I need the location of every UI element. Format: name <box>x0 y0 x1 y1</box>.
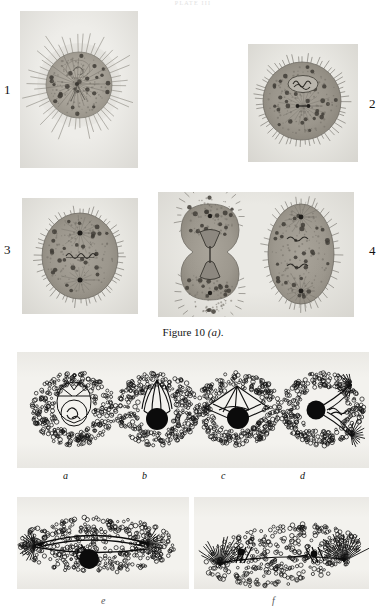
diagram-strip-f <box>194 497 369 589</box>
diagram-label-b: b <box>142 470 147 481</box>
diagram-label-e: e <box>101 595 105 606</box>
micrograph-numeral-1: 1 <box>4 82 11 98</box>
figure-caption-letter: (a) <box>208 326 221 338</box>
running-head: PLATE III <box>0 0 386 6</box>
diagram-strip-e <box>17 497 189 589</box>
micrograph-panel-1 <box>20 11 138 168</box>
diagram-label-f: f <box>272 595 275 606</box>
figure-plate-page: PLATE III <box>0 0 386 608</box>
panel-1-vignette <box>20 11 138 168</box>
diagram-strip-row-1 <box>17 352 369 468</box>
micrograph-panel-4 <box>158 192 354 317</box>
micrograph-panel-3 <box>22 198 138 314</box>
diagram-label-a: a <box>63 470 68 481</box>
diagram-label-d: d <box>300 470 305 481</box>
panel-2-vignette <box>248 44 358 162</box>
micrograph-numeral-3: 3 <box>4 242 11 258</box>
figure-caption-suffix: . <box>221 326 224 338</box>
diagram-row-1-vignette <box>17 352 369 468</box>
diagram-f-vignette <box>194 497 369 589</box>
diagram-e-vignette <box>17 497 189 589</box>
figure-caption-prefix: Figure 10 <box>163 326 208 338</box>
micrograph-panel-2 <box>248 44 358 162</box>
panel-4-vignette <box>158 192 354 317</box>
micrograph-numeral-4: 4 <box>369 243 376 259</box>
panel-3-vignette <box>22 198 138 314</box>
figure-caption: Figure 10 (a). <box>0 326 386 338</box>
diagram-label-c: c <box>221 470 225 481</box>
micrograph-numeral-2: 2 <box>369 96 376 112</box>
